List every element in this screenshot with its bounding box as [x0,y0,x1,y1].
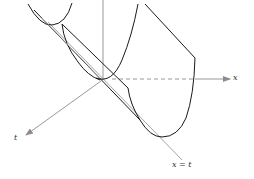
t-axis-label: t [14,134,17,142]
front-parabola-near [96,4,138,79]
back-parabola [28,3,72,25]
diagram-canvas [0,0,254,179]
x-axis-label: x [233,74,238,82]
line-x-equals-t [48,22,182,160]
t-axis [26,81,101,135]
line-x-equals-t-label: x = t [172,161,192,169]
surface-guide-line [42,18,100,78]
surface-top-edge [145,4,195,58]
front-parabola-far [128,58,195,137]
